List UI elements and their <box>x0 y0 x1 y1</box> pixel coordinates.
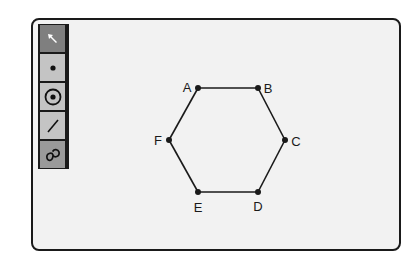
line-icon <box>44 117 62 135</box>
vertex-label-B: B <box>264 82 273 95</box>
tool-point-button[interactable] <box>39 54 66 81</box>
vertex-label-A: A <box>183 81 192 94</box>
tool-circle-button[interactable] <box>39 83 66 110</box>
point-icon <box>45 60 61 76</box>
circle-icon <box>43 87 63 107</box>
vertex-label-E: E <box>194 201 203 214</box>
tool-line-button[interactable] <box>39 112 66 139</box>
tool-palette <box>38 24 69 169</box>
arrow-pointer-icon <box>45 31 61 47</box>
vertex-label-F: F <box>154 134 162 147</box>
drawing-canvas[interactable] <box>31 18 401 251</box>
vertex-label-D: D <box>253 200 262 213</box>
tool-curve-button[interactable] <box>39 141 66 168</box>
tool-select-button[interactable] <box>39 25 66 52</box>
vertex-label-C: C <box>291 135 300 148</box>
curve-icon <box>43 145 63 165</box>
